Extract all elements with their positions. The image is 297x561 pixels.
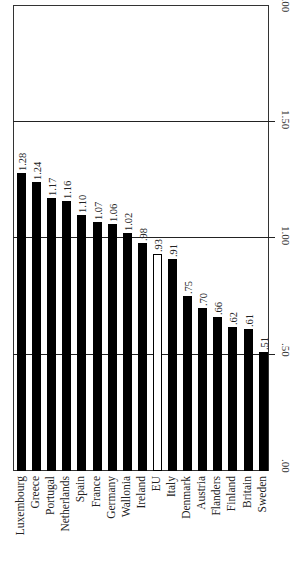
bar-portugal <box>47 198 56 471</box>
y-tick-label: 1.00 <box>280 226 292 245</box>
bar-wallonia <box>123 233 132 471</box>
bar-ireland <box>138 243 147 471</box>
bar-flanders <box>213 317 222 471</box>
bar-sweden <box>259 352 268 471</box>
category-label: Ireland <box>135 476 147 509</box>
value-label: .93 <box>153 239 164 252</box>
bar-britain <box>244 329 253 471</box>
bar-netherlands <box>62 201 71 471</box>
value-label: .75 <box>183 281 194 294</box>
category-label: Sweden <box>256 476 268 512</box>
bar-germany <box>108 224 117 471</box>
category-label: Luxembourg <box>14 476 26 535</box>
bar-greece <box>32 182 41 471</box>
value-label: .61 <box>244 314 255 327</box>
category-label: EU <box>150 476 162 491</box>
value-label: 1.07 <box>93 201 104 219</box>
y-tick-label: .00 <box>280 459 292 473</box>
value-label: 1.16 <box>62 180 73 198</box>
y-tick-label: .50 <box>280 343 292 357</box>
bar-france <box>93 222 102 471</box>
value-label: .98 <box>138 228 149 241</box>
category-label: Italy <box>165 476 177 497</box>
bar-finland <box>228 327 237 471</box>
category-label: Finland <box>225 476 237 511</box>
bar-eu <box>153 254 162 471</box>
value-label: 1.02 <box>123 213 134 231</box>
category-label: Netherlands <box>59 476 71 532</box>
y-tick-label: 1.50 <box>280 110 292 129</box>
category-label: Wallonia <box>120 476 132 517</box>
category-label: Flanders <box>210 476 222 516</box>
value-label: .66 <box>213 302 224 315</box>
value-label: .51 <box>259 337 270 350</box>
bar-spain <box>77 215 86 471</box>
value-label: 1.17 <box>47 178 58 196</box>
value-label: .62 <box>228 311 239 324</box>
value-label: 1.24 <box>32 162 43 180</box>
bar-italy <box>168 259 177 471</box>
y-tick-label: 2.00 <box>280 0 292 12</box>
value-label: 1.06 <box>108 204 119 222</box>
bar-denmark <box>183 296 192 471</box>
category-label: Spain <box>74 476 86 502</box>
value-label: 1.10 <box>77 194 88 212</box>
category-label: Germany <box>105 476 117 519</box>
bar-chart: .00.501.001.502.00 1.28Luxembourg1.24Gre… <box>0 0 297 561</box>
category-label: Denmark <box>180 476 192 519</box>
category-label: Austria <box>195 476 207 510</box>
value-label: .70 <box>198 293 209 306</box>
category-label: France <box>90 476 102 507</box>
category-label: Britain <box>241 476 253 508</box>
value-label: .91 <box>168 244 179 257</box>
category-label: Portugal <box>44 476 56 515</box>
category-label: Greece <box>29 476 41 509</box>
gridline <box>13 121 275 122</box>
value-label: 1.28 <box>17 152 28 170</box>
bar-luxembourg <box>17 173 26 471</box>
bar-austria <box>198 308 207 471</box>
